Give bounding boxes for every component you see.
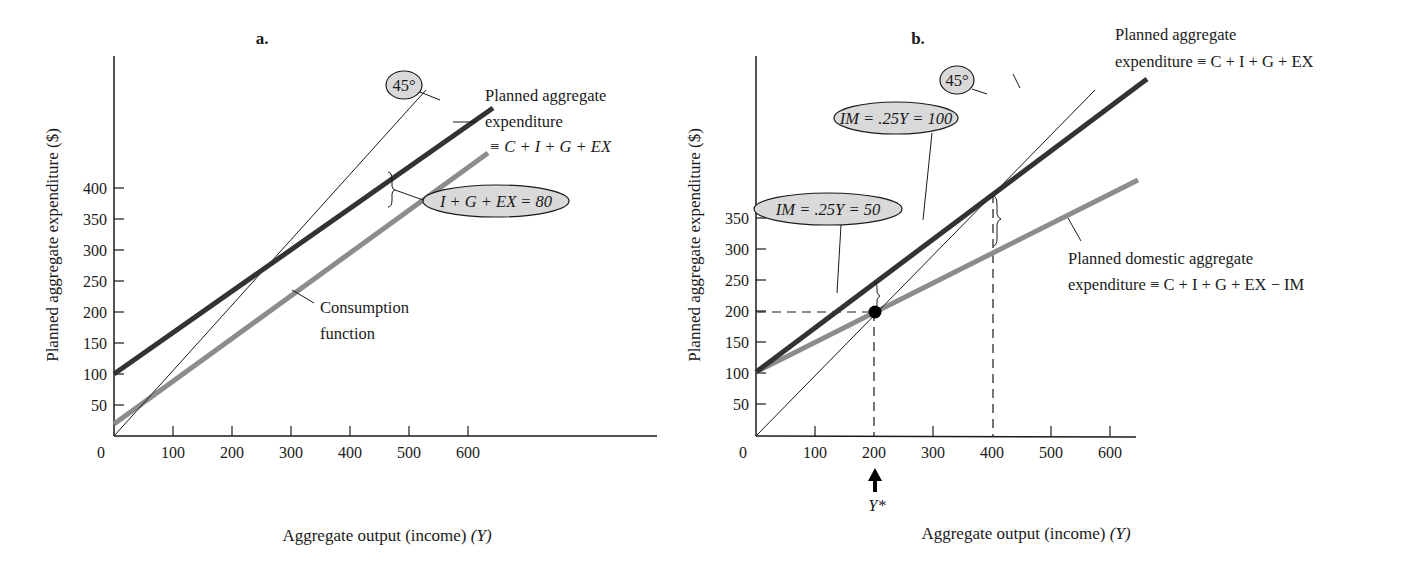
x-tick-label: 300 [921,444,945,461]
arrow-up-icon [868,468,882,492]
panel-b-x-tick-labels: 0 100 200 300 400 500 600 [739,444,1122,461]
panel-a-x-tick-labels: 0 100 200 300 400 500 600 [97,444,480,461]
panel-b-x-ticks [815,426,1110,436]
leader-line [1013,74,1020,88]
label-im-100: IM = .25Y = 100 [839,109,953,128]
im100-brace [993,196,1001,246]
label-im-50: IM = .25Y = 50 [775,200,881,219]
pae-label-line3: ≡ C + I + G + EX [489,137,612,156]
panel-a-x-ticks [173,426,468,436]
x-tick-label: 600 [1098,444,1122,461]
x-tick-label: 200 [220,444,244,461]
leader-line [1068,218,1081,241]
x-tick-label: 600 [456,444,480,461]
label-45-degree: 45° [392,76,415,95]
domestic-label-line1: Planned domestic aggregate [1068,249,1253,268]
x-tick-label: 300 [279,444,303,461]
y-tick-label: 250 [725,272,749,289]
y-tick-label: 50 [733,396,749,413]
y-tick-label: 300 [725,241,749,258]
panel-b-x-axis [756,436,1136,437]
y-tick-label: 200 [725,303,749,320]
panel-b-y-tick-labels: 50 100 150 200 250 300 350 [725,210,749,413]
consumption-label-line1: Consumption [320,298,409,317]
panel-b-title: b. [911,29,925,48]
y-tick-label: 100 [725,365,749,382]
panel-a-title: a. [256,29,269,48]
leader-line [923,133,932,220]
y-tick-label: 350 [83,211,107,228]
panel-b-x-axis-title: Aggregate output (income) (Y) [921,524,1130,543]
x-tick-label: 100 [161,444,185,461]
x-tick-label: 500 [1039,444,1063,461]
origin-label: 0 [739,444,747,461]
y-tick-label: 350 [725,210,749,227]
y-tick-label: 250 [83,273,107,290]
panel-b-y-axis-title: Planned aggregate expenditure ($) [685,128,704,362]
y-tick-label: 50 [91,397,107,414]
label-ige-80: I + G + EX = 80 [439,192,553,211]
domestic-label-line2: expenditure ≡ C + I + G + EX − IM [1068,275,1305,294]
x-tick-label: 200 [862,444,886,461]
x-tick-label: 100 [803,444,827,461]
panel-a: a. Planned aggregate expenditure ($) 50 … [43,29,657,545]
panel-a-y-axis-title: Planned aggregate expenditure ($) [43,128,62,362]
y-tick-label: 200 [83,304,107,321]
equilibrium-point [869,306,882,319]
y-tick-label: 100 [83,366,107,383]
panel-b-y-ticks [756,218,766,404]
figure: a. Planned aggregate expenditure ($) 50 … [0,0,1416,575]
panel-a-x-axis-title: Aggregate output (income) (Y) [282,526,491,545]
pae-label-line2: expenditure [485,112,563,131]
origin-label: 0 [97,444,105,461]
y-tick-label: 400 [83,180,107,197]
leader-line [292,290,314,303]
pae-label-line1: Planned aggregate [1115,25,1236,44]
leader-line [420,92,440,100]
ystar-label: Y* [868,496,886,515]
leader-line [972,89,987,94]
leader-line [837,225,841,293]
pae-label-line2: expenditure ≡ C + I + G + EX [1115,52,1314,71]
pae-label-line1: Planned aggregate [485,86,606,105]
x-tick-label: 400 [338,444,362,461]
label-45-degree: 45° [945,71,968,90]
panel-b: b. Planned aggregate expenditure ($) 50 … [685,25,1314,543]
consumption-label-line2: function [320,324,375,343]
x-tick-label: 500 [397,444,421,461]
x-tick-label: 400 [980,444,1004,461]
planned-aggregate-expenditure-line [114,108,493,374]
45-degree-line [756,90,1095,436]
y-tick-label: 150 [725,334,749,351]
panel-a-y-tick-labels: 50 100 150 200 250 300 350 400 [83,180,107,414]
y-tick-label: 150 [83,335,107,352]
y-tick-label: 300 [83,242,107,259]
leader-line [395,190,423,200]
